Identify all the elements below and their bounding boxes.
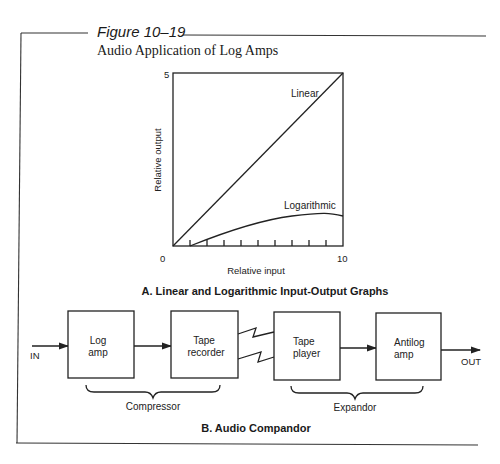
x-max-tick-label: 10: [337, 253, 348, 264]
output-label: OUT: [461, 356, 481, 367]
expandor-label: Expandor: [334, 402, 377, 413]
x-min-tick-label: 0: [160, 253, 165, 264]
compressor-label: Compressor: [126, 401, 181, 412]
block-tape-player-line1: Tape: [293, 336, 315, 347]
block-tape-player: Tape player: [274, 312, 340, 380]
figure-number: Figure 10–19: [97, 23, 186, 40]
block-tape-recorder-line1: Tape: [193, 335, 215, 346]
block-antilog-amp-line2: amp: [394, 349, 414, 360]
block-antilog-amp-line1: Antilog: [394, 337, 425, 348]
block-antilog-amp: Antilog amp: [376, 313, 441, 380]
figure-frame: [16, 33, 486, 445]
io-graph: Linear Logarithmic 5 0 10 Relative input…: [152, 69, 348, 276]
y-axis-label: Relative output: [152, 128, 163, 192]
x-axis-label: Relative input: [227, 265, 285, 276]
block-log-amp-line2: amp: [88, 347, 108, 358]
block-log-amp-line1: Log: [90, 335, 107, 346]
tape-link-lower: [238, 352, 274, 362]
block-tape-recorder-line2: recorder: [187, 347, 225, 358]
block-tape-recorder: Tape recorder: [171, 311, 238, 378]
x-minor-ticks: [190, 240, 326, 246]
figure-canvas: Figure 10–19 Audio Application of Log Am…: [0, 0, 500, 464]
compander-diagram: IN Log amp Tape recorder Tape player Ant…: [30, 311, 481, 413]
figure-title: Audio Application of Log Amps: [97, 43, 278, 58]
tape-link-upper: [238, 328, 274, 337]
input-label: IN: [30, 350, 40, 361]
logarithmic-label: Logarithmic: [284, 200, 336, 211]
expandor-brace: [291, 386, 423, 399]
compressor-brace: [86, 385, 220, 398]
graph-caption: A. Linear and Logarithmic Input-Output G…: [142, 285, 389, 297]
compander-caption: B. Audio Compandor: [201, 422, 311, 434]
block-log-amp: Log amp: [68, 311, 134, 378]
logarithmic-series-curve: [190, 213, 343, 246]
linear-label: Linear: [291, 88, 319, 99]
y-max-tick-label: 5: [164, 69, 169, 80]
block-tape-player-line2: player: [293, 348, 321, 359]
